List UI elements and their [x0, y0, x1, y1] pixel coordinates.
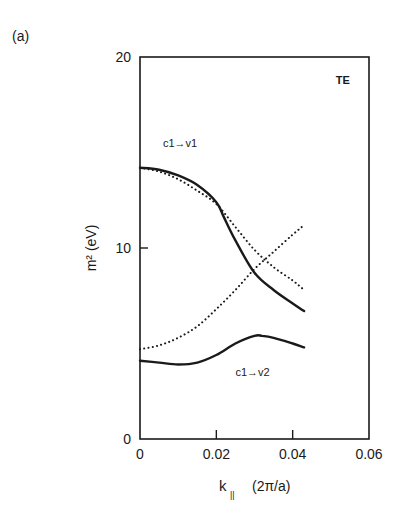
y-tick-label: 20	[115, 49, 131, 65]
solid-curve	[140, 335, 304, 364]
annotations: c1→v1c1→v2TE	[163, 74, 350, 378]
x-axis-label-main: k	[219, 477, 227, 494]
data-series	[140, 168, 304, 365]
curve-annotation: c1→v1	[163, 137, 197, 149]
x-tick-label: 0.02	[203, 446, 230, 462]
x-tick-label: 0.04	[279, 446, 306, 462]
curve-annotation: c1→v2	[235, 366, 269, 378]
chart: (a) 00.020.040.0601020 c1→v1c1→v2TE m² (…	[0, 0, 405, 521]
x-tick-label: 0	[136, 446, 144, 462]
dotted-curve	[140, 168, 304, 290]
y-tick-label: 10	[115, 240, 131, 256]
figure: (a) 00.020.040.0601020 c1→v1c1→v2TE m² (…	[0, 0, 405, 521]
plot-frame	[140, 57, 369, 439]
panel-label: (a)	[12, 28, 29, 44]
y-tick-label: 0	[123, 431, 131, 447]
solid-curve	[140, 168, 304, 311]
curve-annotation: TE	[336, 74, 350, 86]
y-axis-label: m² (eV)	[83, 225, 99, 272]
dotted-curve	[140, 225, 304, 349]
x-tick-label: 0.06	[355, 446, 382, 462]
tick-labels: 00.020.040.0601020	[115, 49, 382, 462]
axis-ticks	[140, 248, 293, 439]
x-axis-label-unit: (2π/a)	[252, 478, 290, 494]
x-axis-label-subscript: ||	[230, 490, 235, 500]
x-axis-label: k || (2π/a)	[219, 477, 290, 500]
